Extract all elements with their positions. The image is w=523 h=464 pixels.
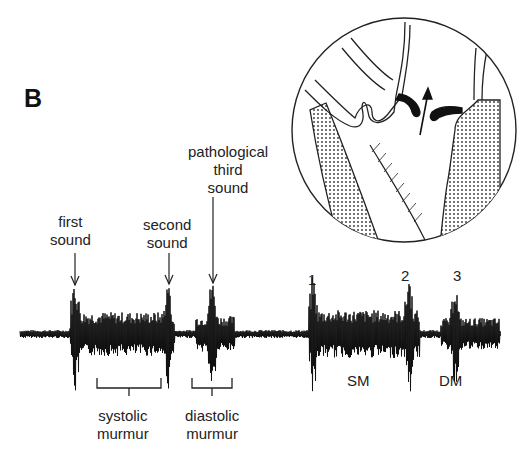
heart-inset-icon bbox=[292, 18, 516, 245]
phonocardiogram-waveform bbox=[20, 277, 501, 391]
figure-graphics bbox=[0, 0, 523, 464]
arrow-icons bbox=[71, 197, 217, 285]
